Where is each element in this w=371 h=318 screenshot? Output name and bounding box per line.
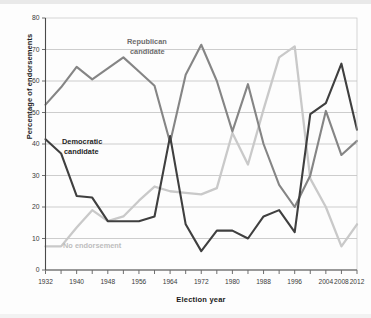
series-line-republican-candidate <box>46 45 358 207</box>
x-tick-label: 1988 <box>256 278 271 285</box>
y-tick-label: 60 <box>32 77 40 84</box>
x-tick-label: 2008 <box>334 278 349 285</box>
x-tick-label: 1996 <box>287 278 302 285</box>
x-tick-labels-group: 1932194019481956196419721980198819962004… <box>38 278 365 285</box>
x-tick-label: 1980 <box>225 278 240 285</box>
x-tick-label: 1932 <box>38 278 53 285</box>
y-tick-labels-group: 01020304050607080 <box>32 14 40 273</box>
chart-screenshot: Percentage of endorsements Election year… <box>0 0 371 318</box>
x-tick-label: 1956 <box>132 278 147 285</box>
y-tick-label: 20 <box>32 203 40 210</box>
line-chart-plot-area: 01020304050607080 1932194019481956196419… <box>0 0 371 318</box>
x-tick-label: 1964 <box>163 278 178 285</box>
y-tick-label: 70 <box>32 46 40 53</box>
y-tick-label: 50 <box>32 109 40 116</box>
y-tick-label: 40 <box>32 140 40 147</box>
x-tick-label: 2004 <box>319 278 334 285</box>
y-tick-label: 10 <box>32 235 40 242</box>
annotation-label: candidate <box>64 147 99 156</box>
x-tick-label: 1948 <box>100 278 115 285</box>
x-tick-label: 1972 <box>194 278 209 285</box>
x-tick-label: 1940 <box>69 278 84 285</box>
x-tickmarks-group <box>46 270 358 274</box>
series-line-democratic-candidate <box>46 64 358 251</box>
line-chart-svg: 01020304050607080 1932194019481956196419… <box>0 0 371 318</box>
x-tick-label: 2012 <box>350 278 365 285</box>
annotation-label: No endorsement <box>63 241 122 250</box>
annotation-label: Republican <box>127 37 167 46</box>
annotation-label: Democratic <box>62 137 102 146</box>
annotation-label: candidate <box>130 47 165 56</box>
y-tick-label: 0 <box>36 266 40 273</box>
y-tick-label: 30 <box>32 172 40 179</box>
y-tick-label: 80 <box>32 14 40 21</box>
